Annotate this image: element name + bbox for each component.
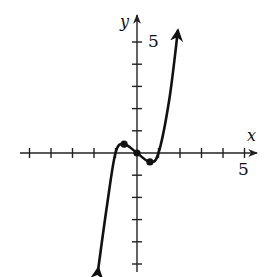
marked-point [133, 149, 140, 156]
y-axis [132, 15, 142, 272]
chart-canvas: y 5 x 5 [0, 0, 275, 277]
marked-point [146, 158, 153, 165]
y-tick-label-5: 5 [148, 31, 159, 51]
y-axis-label: y [119, 12, 130, 31]
x-tick-label-5: 5 [238, 159, 249, 179]
cubic-curve [98, 31, 178, 269]
marked-point [121, 141, 128, 148]
x-axis-label: x [247, 126, 256, 145]
